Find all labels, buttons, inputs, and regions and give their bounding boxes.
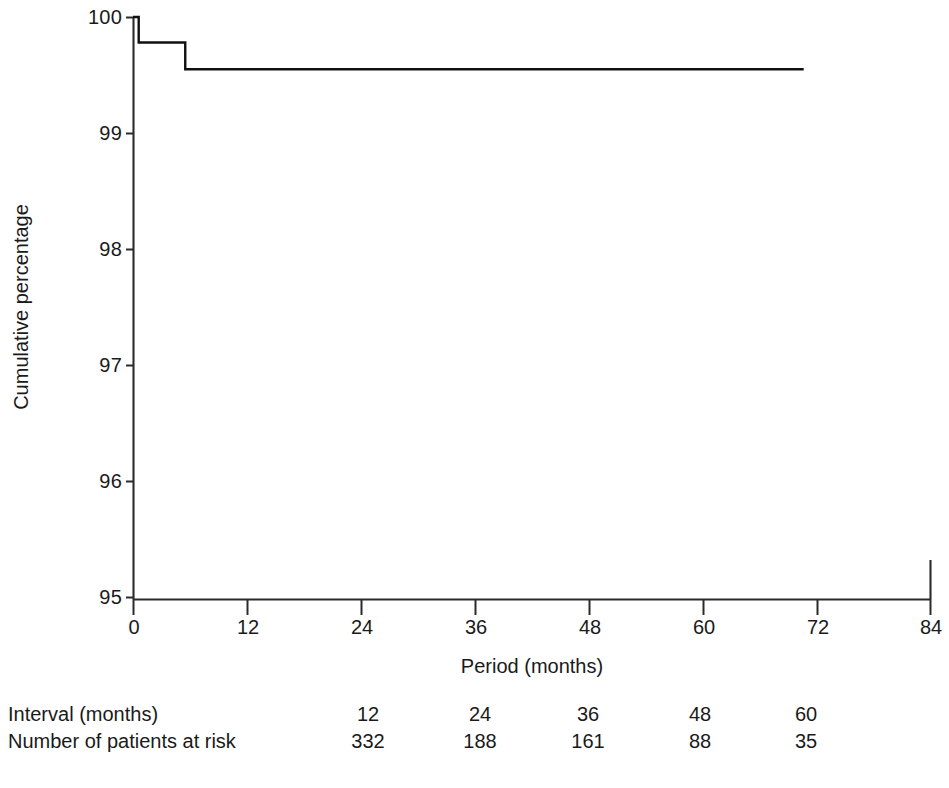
y-axis-title: Cumulative percentage: [10, 147, 32, 467]
risk-cell-interval-24: 24: [445, 702, 515, 726]
numbers-at-risk-table: Interval (months) 12 24 36 48 60 Number …: [8, 702, 949, 762]
risk-cell-patients-24: 188: [445, 729, 515, 753]
figure-container: 100 99 98 97 96 95 0 12 24 36 48 60 72 8…: [0, 0, 949, 788]
risk-cell-patients-36: 161: [553, 729, 623, 753]
risk-cell-interval-48: 48: [665, 702, 735, 726]
x-tick-label-60: 60: [674, 617, 734, 637]
survival-step-curve: [133, 17, 804, 69]
x-tick-label-group: 0 12 24 36 48 60 72 84: [0, 617, 949, 643]
table-row: Interval (months) 12 24 36 48 60: [8, 702, 949, 729]
table-row: Number of patients at risk 332 188 161 8…: [8, 729, 949, 756]
risk-row-label-patients: Number of patients at risk: [8, 729, 236, 753]
risk-cell-patients-60: 35: [771, 729, 841, 753]
page-bottom-margin: [0, 770, 949, 788]
risk-row-label-interval: Interval (months): [8, 702, 158, 726]
plot-area: 100 99 98 97 96 95 0 12 24 36 48 60 72 8…: [0, 0, 949, 640]
x-tick-label-24: 24: [332, 617, 392, 637]
risk-cell-patients-48: 88: [665, 729, 735, 753]
y-tick-label-group: 100 99 98 97 96 95: [62, 0, 122, 640]
x-tick-label-0: 0: [104, 617, 164, 637]
y-tick-label-98: 98: [66, 239, 122, 259]
x-axis-ticks: [134, 599, 931, 615]
x-tick-label-48: 48: [560, 617, 620, 637]
y-tick-label-95: 95: [66, 587, 122, 607]
x-tick-label-36: 36: [446, 617, 506, 637]
x-tick-label-12: 12: [218, 617, 278, 637]
chart-canvas: [0, 0, 949, 640]
risk-cell-interval-60: 60: [771, 702, 841, 726]
risk-cell-interval-12: 12: [333, 702, 403, 726]
risk-cell-patients-12: 332: [333, 729, 403, 753]
x-tick-label-84: 84: [901, 617, 949, 637]
x-tick-label-72: 72: [788, 617, 848, 637]
y-tick-label-99: 99: [66, 123, 122, 143]
y-tick-label-100: 100: [66, 7, 122, 27]
y-tick-label-96: 96: [66, 471, 122, 491]
y-axis-ticks: [126, 18, 133, 598]
x-axis-title: Period (months): [133, 655, 931, 677]
y-tick-label-97: 97: [66, 355, 122, 375]
risk-cell-interval-36: 36: [553, 702, 623, 726]
